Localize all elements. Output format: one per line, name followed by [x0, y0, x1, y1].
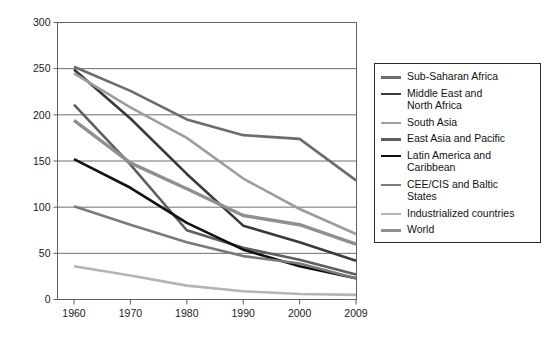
- series-line-0: [74, 67, 356, 181]
- x-tick-label: 1990: [232, 307, 256, 319]
- series-line-4: [74, 159, 356, 278]
- legend-label: World: [407, 223, 434, 236]
- y-tick-label: 150: [33, 155, 51, 167]
- legend-label: CEE/CIS and Baltic States: [407, 178, 498, 203]
- legend-item[interactable]: Middle East and North Africa: [381, 87, 535, 112]
- x-tick-label: 1970: [119, 307, 143, 319]
- legend-item[interactable]: Industrialized countries: [381, 207, 535, 220]
- chart-page: 050100150200250300 196019701980199020002…: [0, 0, 549, 340]
- legend-item[interactable]: Latin America and Caribbean: [381, 149, 535, 174]
- legend-swatch-line-icon: [381, 155, 401, 158]
- legend-item[interactable]: CEE/CIS and Baltic States: [381, 178, 535, 203]
- gridlines: [58, 23, 357, 300]
- legend-swatch-line-icon: [381, 93, 401, 96]
- legend-swatch-line-icon: [381, 229, 401, 232]
- y-tick-label: 300: [33, 16, 51, 28]
- legend-list: Sub-Saharan AfricaMiddle East and North …: [375, 64, 540, 242]
- x-tick-label: 1980: [175, 307, 199, 319]
- legend-label: Industrialized countries: [407, 207, 514, 220]
- legend-item[interactable]: East Asia and Pacific: [381, 132, 535, 145]
- legend-label: Latin America and Caribbean: [407, 149, 491, 174]
- y-tick-label: 50: [39, 247, 51, 259]
- x-tick-label: 2000: [288, 307, 312, 319]
- legend-swatch-line-icon: [381, 122, 401, 125]
- legend-swatch-line-icon: [381, 138, 401, 141]
- legend-item[interactable]: South Asia: [381, 116, 535, 129]
- x-axis-ticks: [74, 300, 356, 305]
- data-series-group: [74, 67, 356, 295]
- y-tick-label: 0: [45, 293, 51, 305]
- legend-swatch-line-icon: [381, 76, 401, 79]
- y-tick-label: 100: [33, 201, 51, 213]
- legend-item[interactable]: Sub-Saharan Africa: [381, 70, 535, 83]
- legend-swatch-line-icon: [381, 184, 401, 187]
- chart-legend: Sub-Saharan AfricaMiddle East and North …: [374, 63, 541, 243]
- x-tick-label: 2009: [344, 307, 368, 319]
- x-tick-label: 1960: [62, 307, 86, 319]
- x-axis-tick-labels: 196019701980199020002009: [62, 307, 368, 319]
- legend-label: South Asia: [407, 116, 457, 129]
- y-tick-label: 250: [33, 62, 51, 74]
- y-tick-label: 200: [33, 109, 51, 121]
- series-line-5: [74, 206, 356, 278]
- legend-label: East Asia and Pacific: [407, 132, 505, 145]
- y-axis-ticks: [54, 23, 58, 300]
- legend-swatch-line-icon: [381, 213, 401, 216]
- legend-item[interactable]: World: [381, 223, 535, 236]
- legend-label: Middle East and North Africa: [407, 87, 482, 112]
- y-axis-tick-labels: 050100150200250300: [33, 16, 51, 305]
- series-line-7: [74, 120, 356, 244]
- legend-label: Sub-Saharan Africa: [407, 70, 498, 83]
